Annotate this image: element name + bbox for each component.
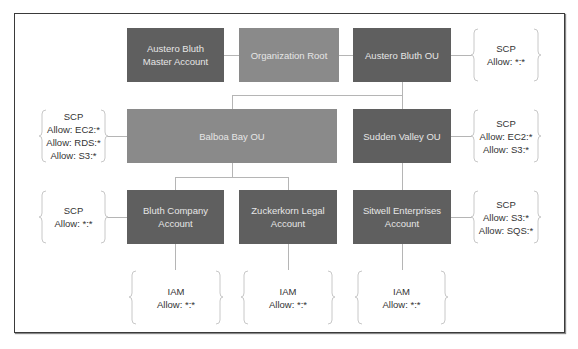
connector-balboa-up	[232, 95, 233, 109]
connector-ou-bar	[232, 95, 402, 96]
zuck-iam-policy: IAMAllow: *:*	[242, 270, 334, 325]
bluth-company-account-node: Bluth CompanyAccount	[127, 190, 224, 244]
zuckerkorn-legal-account-node: Zuckerkorn LegalAccount	[239, 190, 337, 244]
zuck-line2: Account	[251, 217, 324, 230]
policy-title: SCP	[487, 42, 525, 55]
sitwell-scp-policy: SCPAllow: S3:*Allow: SQS:*	[472, 190, 540, 244]
connector-account-bar	[175, 177, 288, 178]
connector-sitwell-scp	[451, 217, 472, 218]
connector-bluth-up	[175, 177, 176, 190]
bluth-scp-policy: SCPAllow: *:*	[40, 190, 107, 244]
master-account-node: Austero BluthMaster Account	[127, 28, 224, 82]
connector-zuck-iam	[288, 244, 289, 270]
policy-title: SCP	[479, 198, 533, 211]
connector-austero-scp	[451, 55, 472, 56]
master-account-line2: Master Account	[143, 55, 208, 68]
zuck-line1: Zuckerkorn Legal	[251, 204, 324, 217]
policy-line: Allow: EC2:*	[46, 123, 100, 136]
policy-line: Allow: *:*	[269, 298, 307, 311]
connector-balboa-scp	[107, 136, 127, 137]
austero-bluth-ou-node: Austero Bluth OU	[353, 28, 451, 82]
policy-title: IAM	[157, 285, 195, 298]
connector-sudden-scp	[451, 136, 472, 137]
master-account-line1: Austero Bluth	[143, 42, 208, 55]
connector-balboa-down	[232, 163, 233, 177]
connector-sudden-down	[402, 163, 403, 190]
policy-line: Allow: EC2:*	[480, 130, 533, 143]
sudden-valley-ou-label: Sudden Valley OU	[363, 130, 440, 143]
policy-line: Allow: SQS:*	[479, 224, 533, 237]
organization-root-node: Organization Root	[239, 28, 339, 82]
sitwell-iam-policy: IAMAllow: *:*	[356, 270, 447, 325]
balboa-scp-policy: SCPAllow: EC2:*Allow: RDS:*Allow: S3:*	[40, 109, 107, 163]
policy-line: Allow: S3:*	[479, 211, 533, 224]
connector-master-root	[224, 55, 239, 56]
sitwell-line1: Sitwell Enterprises	[363, 204, 441, 217]
austero-scp-policy: SCPAllow: *:*	[472, 28, 540, 82]
austero-bluth-ou-label: Austero Bluth OU	[365, 49, 439, 62]
connector-bluth-iam	[175, 244, 176, 270]
policy-title: IAM	[382, 285, 420, 298]
sudden-valley-ou-node: Sudden Valley OU	[353, 109, 451, 163]
sitwell-line2: Account	[363, 217, 441, 230]
policy-title: IAM	[269, 285, 307, 298]
policy-line: Allow: *:*	[487, 55, 525, 68]
policy-line: Allow: S3:*	[46, 149, 100, 162]
bluth-line1: Bluth Company	[143, 204, 208, 217]
policy-line: Allow: *:*	[54, 217, 92, 230]
bluth-iam-policy: IAMAllow: *:*	[130, 270, 222, 325]
sudden-scp-policy: SCPAllow: EC2:*Allow: S3:*	[472, 109, 540, 163]
policy-line: Allow: *:*	[157, 298, 195, 311]
organization-root-label: Organization Root	[251, 49, 328, 62]
connector-bluth-scp	[107, 217, 127, 218]
policy-line: Allow: *:*	[382, 298, 420, 311]
policy-title: SCP	[46, 110, 100, 123]
connector-zuck-up	[288, 177, 289, 190]
connector-sitwell-iam	[402, 244, 403, 270]
bluth-line2: Account	[143, 217, 208, 230]
sitwell-enterprises-account-node: Sitwell EnterprisesAccount	[353, 190, 451, 244]
balboa-bay-ou-node: Balboa Bay OU	[127, 109, 337, 163]
policy-title: SCP	[480, 117, 533, 130]
connector-root-austero	[339, 55, 353, 56]
connector-austero-down	[402, 82, 403, 109]
policy-line: Allow: RDS:*	[46, 136, 100, 149]
policy-line: Allow: S3:*	[480, 143, 533, 156]
balboa-bay-ou-label: Balboa Bay OU	[199, 130, 264, 143]
policy-title: SCP	[54, 204, 92, 217]
